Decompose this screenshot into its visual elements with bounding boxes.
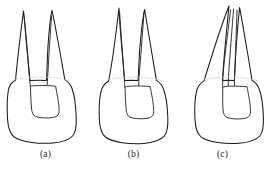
tooth-two-roots-divergent-icon: [0, 0, 91, 150]
panel-label-c: (c): [177, 148, 268, 160]
panel-label-a: (a): [0, 148, 91, 160]
tooth-two-roots-fused-icon: [177, 0, 268, 150]
figure-root: (a) (b) (c): [0, 0, 273, 169]
tooth-panel-a: (a): [0, 0, 91, 169]
tooth-panel-b: (b): [88, 0, 179, 169]
panel-label-b: (b): [88, 148, 179, 160]
tooth-panel-c: (c): [177, 0, 268, 169]
tooth-two-roots-parallel-icon: [88, 0, 179, 150]
